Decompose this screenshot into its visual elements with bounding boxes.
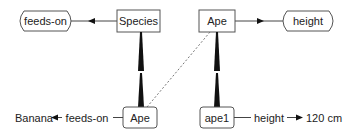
instance-wedge-lower [214,73,220,107]
ape-instance-label: Ape [130,112,150,124]
arrowhead-icon [296,115,303,121]
edge-ape-feeds-on-banana: feeds-on [51,112,123,124]
edge-ape-height [235,18,283,24]
height-type-label: height [293,15,323,27]
arrowhead-icon [257,18,264,24]
node-ape-instance[interactable]: Ape [123,107,157,128]
instance-wedge-upper [138,32,144,71]
edge-ape-dashed-link [147,32,210,107]
species-label: Species [119,15,159,27]
node-height-value[interactable]: 120 cm [306,112,342,124]
node-ape1[interactable]: ape1 [200,107,234,128]
instance-wedge-upper [214,32,220,71]
node-height-type[interactable]: height [283,11,333,31]
edge-species-feeds-on [71,18,117,24]
concept-diagram: feeds-on Species Ape height Ape feeds-on [0,0,354,135]
node-species[interactable]: Species [117,10,160,32]
node-ape-class[interactable]: Ape [199,10,235,32]
feeds-on-type-label: feeds-on [24,15,67,27]
arrowhead-icon [88,18,95,24]
ape1-label: ape1 [205,112,229,124]
edge-ape1-height-value: height [234,112,303,124]
node-banana[interactable]: Banana [15,112,54,124]
edge-label-feeds-on: feeds-on [66,112,109,124]
edge-ape-class-to-ape1 [214,32,220,107]
instance-wedge-lower [138,73,144,107]
edge-species-to-ape [138,32,144,107]
ape-class-label: Ape [207,15,227,27]
edge-label-height: height [254,112,284,124]
node-feeds-on-type[interactable]: feeds-on [20,11,71,31]
